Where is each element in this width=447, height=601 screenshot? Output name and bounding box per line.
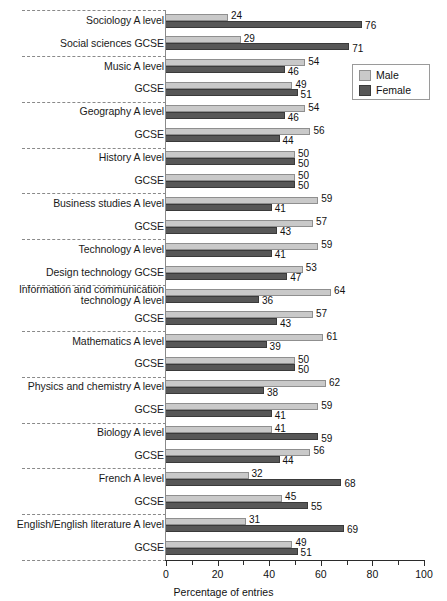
bar-male <box>166 426 272 433</box>
bar-value-female: 51 <box>301 548 312 558</box>
bar-value-male: 53 <box>306 263 317 273</box>
bar-female <box>166 548 298 555</box>
bar-value-female: 55 <box>311 502 322 512</box>
x-tick-minor <box>243 561 244 565</box>
x-tick-label: 20 <box>212 568 224 580</box>
group-separator <box>22 514 166 515</box>
bar-value-female: 50 <box>298 159 309 169</box>
group-separator <box>22 560 166 561</box>
x-tick <box>424 561 425 566</box>
bar-value-male: 50 <box>298 149 309 159</box>
x-tick <box>372 561 373 566</box>
bar-value-female: 50 <box>298 181 309 191</box>
row-label: Technology A level <box>79 244 165 256</box>
bar-value-male: 45 <box>285 492 296 502</box>
x-tick-minor <box>192 561 193 565</box>
bar-value-male: 57 <box>316 217 327 227</box>
x-tick <box>218 561 219 566</box>
bar-value-female: 44 <box>283 136 294 146</box>
bar-value-male: 54 <box>308 103 319 113</box>
bar-female <box>166 273 287 280</box>
bar-value-female: 36 <box>262 296 273 306</box>
bar-female <box>166 135 280 142</box>
row-label: GCSE <box>134 83 164 95</box>
row-label: Design technology GCSE <box>46 267 164 279</box>
y-axis-line <box>165 10 166 561</box>
bar-value-male: 56 <box>313 126 324 136</box>
bar-value-male: 62 <box>329 378 340 388</box>
bar-value-female: 51 <box>301 90 312 100</box>
bar-female <box>166 387 264 394</box>
group-separator <box>22 239 166 240</box>
row-label: Geography A level <box>80 106 164 118</box>
x-tick-label: 0 <box>163 568 169 580</box>
bar-male <box>166 174 295 181</box>
bar-female <box>166 456 280 463</box>
row-label: English/English literature A level <box>17 519 164 531</box>
row-label: GCSE <box>134 221 164 233</box>
bar-value-female: 43 <box>280 227 291 237</box>
bar-male <box>166 403 318 410</box>
legend-swatch-female-icon <box>359 85 371 96</box>
bar-value-female: 39 <box>270 342 281 352</box>
bar-value-female: 69 <box>347 525 358 535</box>
row-label: GCSE <box>134 450 164 462</box>
row-label: GCSE <box>134 313 164 325</box>
bar-value-female: 41 <box>275 250 286 260</box>
group-separator <box>22 377 166 378</box>
bar-female <box>166 364 295 371</box>
bar-value-male: 41 <box>275 424 286 434</box>
bar-male <box>166 14 228 21</box>
x-tick-minor <box>295 561 296 565</box>
row-label: Physics and chemistry A level <box>28 381 164 393</box>
bar-female <box>166 181 295 188</box>
group-separator <box>22 331 166 332</box>
bar-female <box>166 433 318 440</box>
bar-female <box>166 204 272 211</box>
row-label: Business studies A level <box>53 198 164 210</box>
bar-female <box>166 89 298 96</box>
x-tick-label: 100 <box>415 568 433 580</box>
bar-male <box>166 380 326 387</box>
bar-value-male: 24 <box>231 11 242 21</box>
x-tick-minor <box>398 561 399 565</box>
bar-female <box>166 341 267 348</box>
x-tick <box>269 561 270 566</box>
x-tick <box>166 561 167 566</box>
bar-value-male: 29 <box>244 34 255 44</box>
group-separator <box>22 10 166 11</box>
bar-value-male: 31 <box>249 515 260 525</box>
bar-value-female: 46 <box>288 113 299 123</box>
bar-female <box>166 479 341 486</box>
x-tick-minor <box>347 561 348 565</box>
bar-male <box>166 357 295 364</box>
bar-value-male: 32 <box>252 469 263 479</box>
bar-value-male: 59 <box>321 194 332 204</box>
bar-female <box>166 525 344 532</box>
bar-value-male: 57 <box>316 309 327 319</box>
bar-value-female: 68 <box>344 479 355 489</box>
bar-value-female: 41 <box>275 411 286 421</box>
bar-female <box>166 43 349 50</box>
row-label: GCSE <box>134 175 164 187</box>
bar-value-female: 47 <box>290 273 301 283</box>
row-label: GCSE <box>134 542 164 554</box>
bar-value-female: 50 <box>298 365 309 375</box>
bar-female <box>166 410 272 417</box>
bar-male <box>166 541 292 548</box>
bar-value-male: 56 <box>313 446 324 456</box>
bar-value-female: 46 <box>288 67 299 77</box>
bar-male <box>166 495 282 502</box>
bar-female <box>166 227 277 234</box>
group-separator <box>22 148 166 149</box>
bar-female <box>166 21 362 28</box>
bar-female <box>166 66 285 73</box>
bar-value-male: 59 <box>321 401 332 411</box>
group-separator <box>22 193 166 194</box>
bar-value-male: 59 <box>321 240 332 250</box>
bar-female <box>166 158 295 165</box>
bar-male <box>166 243 318 250</box>
bar-value-female: 44 <box>283 456 294 466</box>
bar-value-female: 38 <box>267 388 278 398</box>
bar-chart: Sociology A level2476Social sciences GCS… <box>0 0 447 601</box>
